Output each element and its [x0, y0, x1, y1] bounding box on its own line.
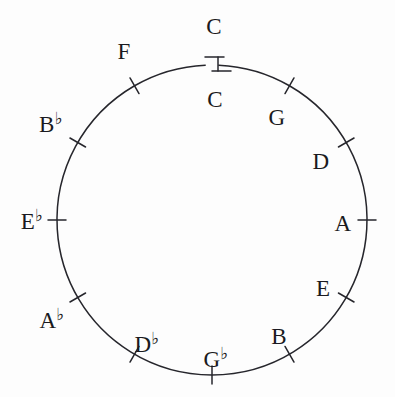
note-letter: C: [207, 87, 223, 112]
flat-accidental-icon: ♭: [56, 304, 64, 324]
tick-g: [285, 78, 294, 94]
note-label-b: B: [271, 325, 287, 348]
circle-of-fifths-figure: CCGDAEBG♭D♭A♭E♭B♭F: [0, 0, 395, 397]
note-letter: A: [335, 211, 352, 236]
note-label-c-bottom: C: [207, 88, 223, 111]
flat-accidental-icon: ♭: [151, 328, 159, 348]
tick-e: [338, 293, 354, 302]
note-label-g: G: [269, 106, 286, 129]
note-label-gb: G♭: [203, 348, 228, 371]
tick-marks: [48, 78, 376, 384]
flat-accidental-icon: ♭: [220, 343, 228, 363]
note-label-db: D♭: [134, 333, 159, 356]
note-label-bb: B♭: [39, 113, 63, 136]
note-letter: D: [134, 332, 151, 357]
note-label-c-top: C: [206, 15, 222, 38]
note-letter: G: [203, 347, 220, 372]
tick-bb: [70, 138, 86, 147]
note-letter: G: [269, 105, 286, 130]
note-label-ab: A♭: [39, 309, 64, 332]
note-letter: B: [271, 324, 287, 349]
note-label-e: E: [316, 277, 330, 300]
note-label-d: D: [313, 150, 330, 173]
note-letter: D: [313, 149, 330, 174]
circle-of-fifths-canvas: [0, 0, 395, 397]
note-letter: B: [39, 112, 55, 137]
note-letter: E: [21, 209, 35, 234]
note-letter: E: [316, 276, 330, 301]
note-label-f: F: [118, 40, 131, 63]
note-letter: A: [39, 308, 56, 333]
note-letter: C: [206, 14, 222, 39]
tick-b: [285, 346, 294, 362]
tick-d: [338, 138, 354, 147]
circle-arc: [57, 65, 367, 375]
flat-accidental-icon: ♭: [55, 108, 63, 128]
tick-ab: [70, 293, 86, 302]
note-label-a: A: [335, 212, 352, 235]
flat-accidental-icon: ♭: [35, 205, 43, 225]
note-label-eb: E♭: [21, 210, 43, 233]
note-letter: F: [118, 39, 131, 64]
tick-f: [130, 78, 139, 94]
